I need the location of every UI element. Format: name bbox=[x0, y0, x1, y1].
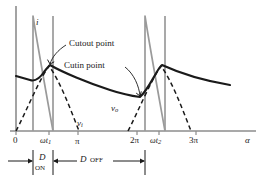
curve-label-input-voltage: vi bbox=[77, 113, 83, 129]
cutin-arrowhead bbox=[136, 91, 141, 96]
bracket-label-d-on: D bbox=[39, 153, 46, 162]
tick-label-pi: π bbox=[75, 137, 80, 146]
tick-label-wt1: ωt1 bbox=[40, 137, 51, 146]
tick-label-3pi: 3π bbox=[189, 136, 198, 145]
vi-subscript: i bbox=[81, 121, 83, 128]
bracket-state-d-on: ON bbox=[35, 165, 45, 172]
wt1-subscript: 1 bbox=[48, 138, 51, 145]
annotation-cutout-point: Cutout point bbox=[69, 39, 114, 48]
interval-brackets bbox=[8, 150, 145, 175]
annotation-cutin-point: Cutin point bbox=[64, 61, 105, 70]
output-voltage-curve bbox=[16, 65, 230, 97]
axis-label-alpha: α bbox=[245, 136, 250, 145]
wt1-symbol: ωt bbox=[40, 136, 48, 145]
wt2-symbol: ωt bbox=[150, 136, 158, 145]
d-off-arrowhead-right bbox=[140, 159, 145, 164]
bracket-state-d-off: OFF bbox=[90, 157, 103, 164]
d-off-arrowhead-left bbox=[53, 159, 58, 164]
vo-path bbox=[16, 65, 230, 97]
tick-label-0: 0 bbox=[13, 136, 18, 145]
wt2-subscript: 2 bbox=[158, 138, 161, 145]
d-on-arrowhead bbox=[28, 159, 33, 164]
waveform-figure: i Cutout point Cutin point vo vi 0 ωt1 π… bbox=[0, 0, 266, 183]
curve-label-output-voltage: vo bbox=[111, 98, 118, 114]
tick-label-wt2: ωt2 bbox=[150, 137, 161, 146]
tick-label-2pi: 2π bbox=[130, 136, 139, 145]
cutin-leader bbox=[125, 67, 140, 96]
current-curve bbox=[33, 16, 165, 131]
curve-label-current: i bbox=[36, 18, 39, 27]
bracket-label-d-off: D bbox=[80, 155, 87, 164]
vo-subscript: o bbox=[115, 106, 118, 113]
